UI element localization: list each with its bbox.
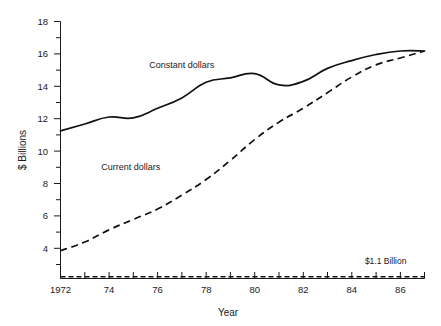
y-tick-label: 18 — [37, 16, 48, 27]
series-label-constant-dollars: Constant dollars — [149, 60, 215, 70]
y-tick-label: 8 — [43, 178, 48, 189]
y-axis-title: $ Billions — [17, 130, 28, 170]
x-tick-label: 80 — [249, 284, 260, 295]
annotation-1-1-billion: $1.1 Billion — [365, 256, 407, 266]
x-axis-title: Year — [218, 307, 239, 318]
x-axis-tick-labels: 1972 74 76 78 80 82 84 86 — [50, 284, 406, 295]
y-axis — [54, 22, 61, 279]
y-tick-label: 12 — [37, 113, 48, 124]
series-constant-dollars — [61, 51, 425, 131]
y-tick-label: 10 — [37, 146, 48, 157]
x-tick-label: 82 — [298, 284, 309, 295]
y-tick-label: 4 — [43, 243, 48, 254]
x-tick-label: 84 — [347, 284, 358, 295]
y-tick-label: 16 — [37, 48, 48, 59]
line-chart: 18 16 14 12 10 8 6 4 — [0, 0, 441, 326]
x-tick-label: 74 — [104, 284, 115, 295]
series-label-current-dollars: Current dollars — [101, 162, 161, 172]
y-axis-tick-labels: 18 16 14 12 10 8 6 4 — [37, 16, 48, 254]
y-tick-label: 6 — [43, 210, 48, 221]
x-axis — [61, 272, 425, 279]
y-tick-label: 14 — [37, 81, 48, 92]
x-tick-label: 78 — [201, 284, 212, 295]
x-tick-label: 76 — [152, 284, 163, 295]
x-tick-label: 86 — [395, 284, 406, 295]
x-tick-label: 1972 — [50, 284, 71, 295]
chart-figure: 18 16 14 12 10 8 6 4 — [0, 0, 441, 326]
series-current-dollars — [61, 51, 425, 251]
